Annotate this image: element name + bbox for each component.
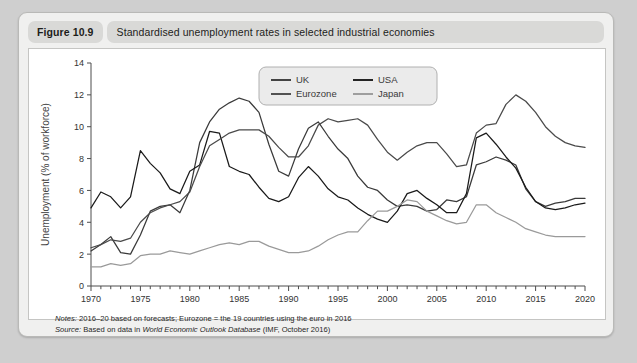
- y-axis-title: Unemployment (% of workforce): [40, 103, 51, 246]
- x-tick-label: 2020: [575, 294, 595, 304]
- x-tick-label: 2015: [526, 294, 546, 304]
- legend-label-uk: UK: [296, 74, 310, 85]
- notes-text: 2016–20 based on forecasts; Eurozone = t…: [77, 314, 352, 323]
- series-line-eurozone: [91, 95, 585, 248]
- page-root: Figure 10.9 Standardised unemployment ra…: [0, 0, 637, 363]
- y-tick-label: 10: [74, 122, 84, 132]
- x-tick-label: 1995: [328, 294, 348, 304]
- figure-number-badge: Figure 10.9: [28, 21, 103, 43]
- notes-label: Notes:: [55, 314, 77, 323]
- x-tick-label: 1990: [279, 294, 299, 304]
- figure-card: Figure 10.9 Standardised unemployment ra…: [18, 12, 614, 337]
- y-tick-label: 14: [74, 58, 84, 68]
- x-tick-label: 1985: [229, 294, 249, 304]
- figure-number-label: Figure 10.9: [37, 26, 94, 38]
- y-tick-label: 4: [79, 218, 84, 228]
- x-tick-label: 1970: [81, 294, 101, 304]
- y-tick-label: 8: [79, 154, 84, 164]
- series-line-usa: [91, 131, 585, 222]
- x-tick-label: 1980: [180, 294, 200, 304]
- y-tick-label: 2: [79, 250, 84, 260]
- legend-label-japan: Japan: [378, 88, 404, 99]
- series-line-japan: [91, 200, 585, 267]
- source-label: Source:: [55, 325, 81, 334]
- y-tick-label: 6: [79, 186, 84, 196]
- source-line: Source: Based on data in World Economic …: [55, 324, 599, 335]
- figure-title: Standardised unemployment rates in selec…: [117, 26, 435, 38]
- legend-box: [259, 67, 437, 105]
- source-publication: World Economic Outlook Database: [142, 325, 260, 334]
- chart-plot-panel: 02468101214Unemployment (% of workforce)…: [28, 48, 606, 320]
- notes-line: Notes: 2016–20 based on forecasts; Euroz…: [55, 313, 599, 324]
- x-tick-label: 2005: [427, 294, 447, 304]
- figure-header: Figure 10.9 Standardised unemployment ra…: [28, 21, 604, 43]
- source-text-pre: Based on data in: [81, 325, 142, 334]
- x-tick-label: 1975: [130, 294, 150, 304]
- unemployment-line-chart: 02468101214Unemployment (% of workforce)…: [29, 49, 605, 319]
- legend-label-eurozone: Eurozone: [296, 88, 337, 99]
- source-text-post: (IMF, October 2016): [261, 325, 331, 334]
- x-tick-label: 2010: [476, 294, 496, 304]
- figure-footnotes: Notes: 2016–20 based on forecasts; Euroz…: [55, 313, 599, 335]
- x-tick-label: 2000: [377, 294, 397, 304]
- legend-label-usa: USA: [378, 74, 398, 85]
- y-tick-label: 0: [79, 281, 84, 291]
- figure-title-bar: Standardised unemployment rates in selec…: [107, 21, 604, 43]
- y-tick-label: 12: [74, 90, 84, 100]
